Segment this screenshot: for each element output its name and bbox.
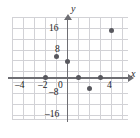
- data-point: [43, 75, 48, 80]
- data-point: [87, 86, 92, 91]
- x-tick-label-neg4: –4: [15, 81, 25, 91]
- y-tick-label-16: 16: [49, 24, 59, 34]
- x-tick-label-0: 0: [58, 81, 63, 91]
- gridline-horizontal: [12, 104, 128, 105]
- y-axis-arrow-icon: [64, 14, 72, 20]
- gridline-horizontal: [12, 93, 128, 94]
- x-tick-label-4: 4: [107, 81, 112, 91]
- y-tick-label-8: 8: [55, 45, 60, 55]
- gridline-horizontal: [12, 115, 128, 116]
- data-point: [109, 28, 114, 33]
- y-axis-label: y: [71, 4, 75, 14]
- y-axis-line: [67, 20, 69, 122]
- y-tick-label-neg16: –16: [45, 110, 59, 120]
- coordinate-plane-figure: y x 16 8 –8 –16 –4 –2 0 4: [0, 0, 140, 138]
- data-point: [54, 54, 59, 59]
- x-tick-label-neg2: –2: [38, 81, 48, 91]
- x-axis-label: x: [131, 69, 135, 79]
- gridline-horizontal: [12, 60, 128, 61]
- gridline-horizontal: [12, 39, 128, 40]
- gridline-horizontal: [12, 119, 128, 120]
- x-axis-line: [8, 77, 130, 79]
- gridline-horizontal: [12, 50, 128, 51]
- gridline-horizontal: [12, 71, 128, 72]
